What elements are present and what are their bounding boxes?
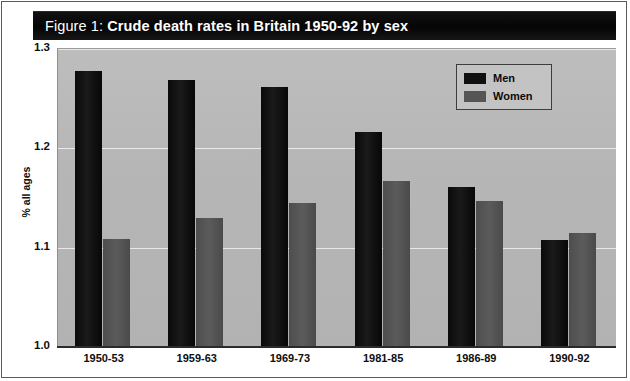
bar-women-1981-85 <box>383 181 410 346</box>
gridline <box>58 248 616 249</box>
bar-women-1969-73 <box>289 203 316 346</box>
y-axis-tick-label: 1.1 <box>10 240 50 252</box>
figure-container: Figure 1: Crude death rates in Britain 1… <box>0 0 630 381</box>
figure-title-text: Crude death rates in Britain 1950-92 by … <box>107 18 408 34</box>
bar-men-1950-53 <box>75 71 102 346</box>
y-axis-tick-label: 1.2 <box>10 140 50 152</box>
x-axis-tick-label: 1981-85 <box>338 352 428 364</box>
legend-swatch-men-icon <box>464 73 486 84</box>
bar-men-1969-73 <box>261 87 288 346</box>
legend-item-men: Men <box>464 70 551 87</box>
legend-swatch-women-icon <box>464 91 486 102</box>
y-axis-label: % all ages <box>20 147 32 237</box>
figure-number-label: Figure 1: <box>45 18 103 34</box>
y-axis-tick-label: 1.0 <box>10 339 50 351</box>
x-axis-tick-label: 1990-92 <box>524 352 614 364</box>
bar-women-1986-89 <box>476 201 503 346</box>
x-axis-tick-label: 1969-73 <box>245 352 335 364</box>
bar-women-1990-92 <box>569 233 596 346</box>
bar-men-1986-89 <box>448 187 475 346</box>
x-axis-tick-label: 1986-89 <box>431 352 521 364</box>
legend-item-women: Women <box>464 88 551 105</box>
x-axis-line <box>57 346 616 348</box>
y-axis-tick-label: 1.3 <box>10 41 50 53</box>
x-axis-tick-label: 1959-63 <box>152 352 242 364</box>
page-title: Figure 1: Crude death rates in Britain 1… <box>33 18 408 34</box>
legend-label-men: Men <box>493 73 515 84</box>
gridline <box>58 148 616 149</box>
bar-women-1959-63 <box>196 218 223 346</box>
bar-men-1990-92 <box>541 240 568 346</box>
bar-men-1959-63 <box>168 80 195 346</box>
legend-label-women: Women <box>493 91 533 102</box>
chart-legend: Men Women <box>456 64 552 110</box>
bar-women-1950-53 <box>103 239 130 346</box>
figure-title-bar: Figure 1: Crude death rates in Britain 1… <box>33 11 616 40</box>
gridline <box>58 49 616 50</box>
bar-men-1981-85 <box>355 132 382 346</box>
x-axis-tick-label: 1950-53 <box>59 352 149 364</box>
